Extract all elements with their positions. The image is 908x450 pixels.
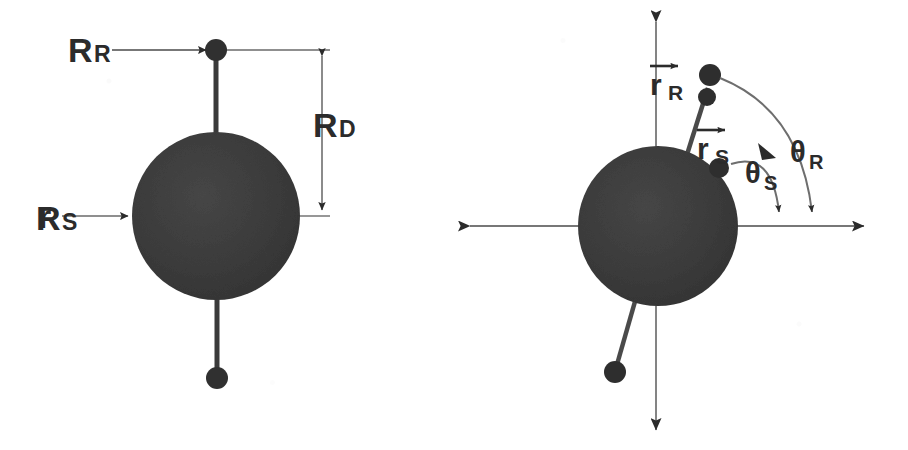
label-rs-vector-subscript: S — [715, 145, 729, 168]
bottom-mass-left — [206, 367, 228, 389]
top-mass-left — [205, 39, 227, 61]
theta-s-arc-midpoint-arrow — [758, 143, 776, 160]
label-rs-base-capital: R — [36, 199, 61, 237]
label-theta-r-subscript: R — [809, 151, 824, 173]
label-rr-vector: r R — [650, 68, 683, 104]
label-theta-s-subscript: S — [764, 172, 777, 194]
lower-mass-right — [604, 361, 626, 383]
label-rr-vector-subscript: R — [668, 81, 683, 104]
label-theta-s: θ S — [745, 157, 777, 194]
upper-inner-mass-right — [698, 88, 716, 106]
label-rs-subscript: S — [62, 209, 77, 235]
label-theta-r-base: θ — [790, 136, 806, 168]
label-rr-vector-base: r — [650, 68, 662, 101]
label-theta-s-base: θ — [745, 157, 761, 189]
rotor-sphere-left — [132, 132, 300, 300]
label-theta-r: θ R — [790, 136, 824, 173]
right-panel: r R r S θ S θ R — [470, 22, 864, 430]
upper-mass-right — [699, 64, 721, 86]
label-rr: R R — [68, 31, 111, 69]
figure-root: R R r R S R D — [0, 0, 908, 450]
label-rd-base: R — [313, 106, 338, 144]
label-rd-subscript: D — [339, 116, 356, 142]
rotor-geometry-diagram: R R r R S R D — [0, 0, 908, 450]
label-rr-subscript: R — [94, 41, 111, 67]
label-rs-group: R S — [36, 199, 77, 237]
label-rd: R D — [313, 106, 356, 144]
label-rr-base: R — [68, 31, 93, 69]
left-panel: R R r R S R D — [36, 31, 356, 389]
label-rs-vector-base: r — [697, 132, 709, 165]
